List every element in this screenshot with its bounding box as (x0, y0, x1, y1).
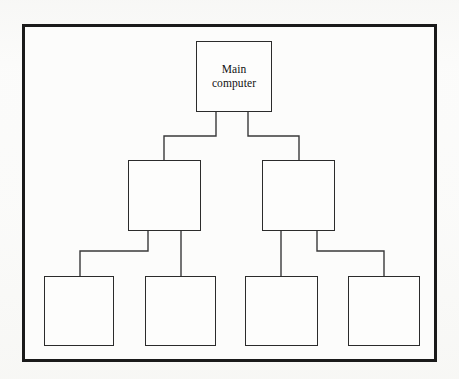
node-main-computer[interactable]: Main computer (196, 41, 272, 112)
node-level2-right[interactable] (262, 160, 335, 231)
connector-edge-right-to-box4 (317, 231, 384, 276)
connector-edge-main-to-left (164, 112, 216, 160)
diagram-canvas: Main computer (0, 0, 459, 379)
node-level3-box3[interactable] (245, 276, 318, 346)
node-label-main-computer: Main computer (209, 63, 259, 90)
node-level3-box1[interactable] (44, 276, 114, 346)
connector-edge-left-to-box1 (80, 231, 148, 276)
node-level3-box4[interactable] (348, 276, 420, 346)
node-level3-box2[interactable] (145, 276, 216, 346)
connector-edge-main-to-right (248, 112, 299, 160)
node-level2-left[interactable] (128, 160, 201, 231)
